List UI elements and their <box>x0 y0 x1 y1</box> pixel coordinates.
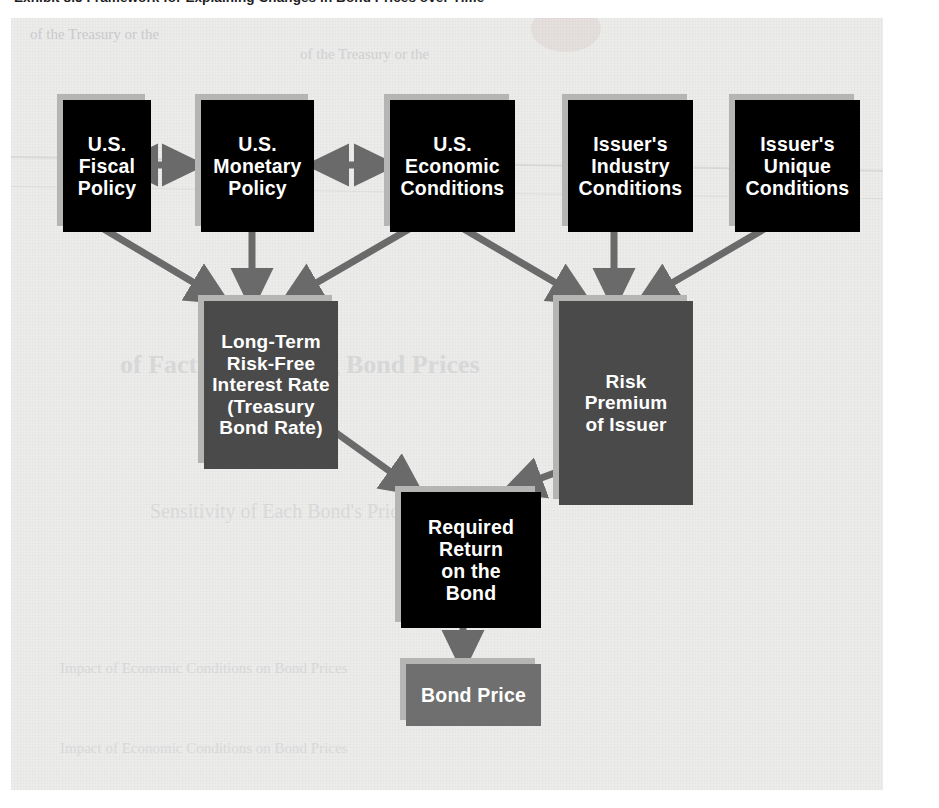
node-label: Risk Premium of Issuer <box>559 371 693 436</box>
node-label: Issuer's Industry Conditions <box>568 133 693 200</box>
node-label: Required Return on the Bond <box>401 516 541 605</box>
node-bond-price[interactable]: Bond Price <box>406 664 541 726</box>
exhibit-diagram-panel: U.S. Fiscal Policy U.S. Monetary Policy … <box>11 18 883 790</box>
node-long-term-risk-free-interest-rate[interactable]: Long-Term Risk-Free Interest Rate (Treas… <box>204 301 338 469</box>
node-label: U.S. Fiscal Policy <box>63 133 151 200</box>
node-required-return-on-the-bond[interactable]: Required Return on the Bond <box>401 492 541 628</box>
node-issuer-industry-conditions[interactable]: Issuer's Industry Conditions <box>568 100 693 232</box>
edge-economic-riskfree <box>292 225 416 297</box>
exhibit-caption: Exhibit 8.5 Framework for Explaining Cha… <box>14 0 914 8</box>
edge-economic-premium <box>457 225 580 297</box>
node-label: Bond Price <box>406 684 541 706</box>
node-label: U.S. Monetary Policy <box>201 133 314 200</box>
node-label: U.S. Economic Conditions <box>390 133 515 200</box>
node-us-fiscal-policy[interactable]: U.S. Fiscal Policy <box>63 100 151 232</box>
node-us-monetary-policy[interactable]: U.S. Monetary Policy <box>201 100 314 232</box>
edge-fiscal-riskfree <box>97 225 218 297</box>
edge-riskfree-required <box>328 427 413 488</box>
node-risk-premium-of-issuer[interactable]: Risk Premium of Issuer <box>559 301 693 505</box>
node-label: Long-Term Risk-Free Interest Rate (Treas… <box>204 331 338 439</box>
edge-unique-premium <box>648 225 771 297</box>
node-issuer-unique-conditions[interactable]: Issuer's Unique Conditions <box>735 100 860 232</box>
exhibit-caption-text: Exhibit 8.5 Framework for Explaining Cha… <box>14 0 484 5</box>
node-us-economic-conditions[interactable]: U.S. Economic Conditions <box>390 100 515 232</box>
node-label: Issuer's Unique Conditions <box>735 133 860 200</box>
